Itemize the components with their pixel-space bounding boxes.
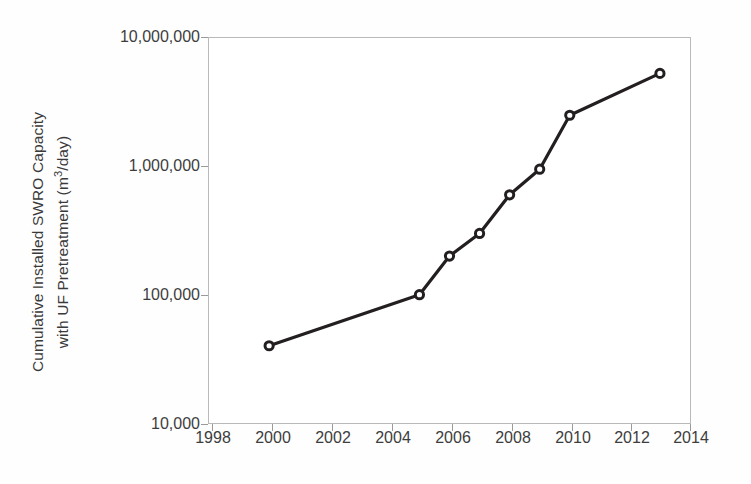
y-axis-title-line-1: Cumulative Installed SWRO Capacity xyxy=(25,112,50,372)
data-point-marker xyxy=(475,229,483,237)
y-axis-title-exponent: 3 xyxy=(52,171,64,177)
y-tick-label-10000000: 10,000,000 xyxy=(90,28,200,46)
data-markers xyxy=(265,69,664,350)
chart-figure: Cumulative Installed SWRO Capacity with … xyxy=(0,0,751,484)
y-axis-tick-1000000 xyxy=(201,166,208,167)
data-point-marker xyxy=(566,111,574,119)
x-axis-tick-labels: 1998 2000 2002 2004 2006 2008 2010 2012 … xyxy=(0,429,751,469)
y-axis-title-line-2-prefix: with UF Pretreatment (m xyxy=(54,177,71,348)
plot-area xyxy=(208,37,691,424)
x-tick-label-2014: 2014 xyxy=(656,429,726,447)
y-axis-tick-labels: 10,000,000 1,000,000 100,000 10,000 xyxy=(88,0,200,484)
data-point-marker xyxy=(656,69,664,77)
data-point-marker xyxy=(506,191,514,199)
data-point-marker xyxy=(445,252,453,260)
chart-data-series xyxy=(209,38,690,423)
data-point-marker xyxy=(415,291,423,299)
data-point-marker xyxy=(536,165,544,173)
data-point-marker xyxy=(265,342,273,350)
y-tick-label-1000000: 1,000,000 xyxy=(90,157,200,175)
y-axis-title: Cumulative Installed SWRO Capacity with … xyxy=(0,0,100,484)
y-axis-title-line-2-suffix: /day) xyxy=(54,136,71,171)
data-line xyxy=(269,73,660,345)
y-axis-tick-10000000 xyxy=(201,37,208,38)
y-axis-title-line-2: with UF Pretreatment (m3/day) xyxy=(50,112,75,372)
y-tick-label-100000: 100,000 xyxy=(90,286,200,304)
y-axis-tick-100000 xyxy=(201,295,208,296)
y-axis-tick-10000 xyxy=(201,424,208,425)
